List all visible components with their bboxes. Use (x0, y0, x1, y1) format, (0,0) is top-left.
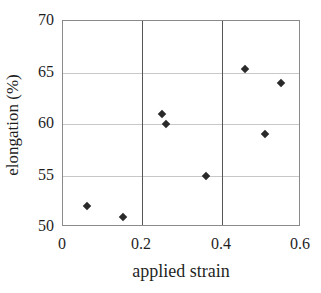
vertical-reference-line (222, 21, 223, 225)
diamond-marker (162, 120, 170, 128)
horizontal-gridline (63, 176, 299, 177)
plot-area (62, 20, 300, 226)
diamond-marker (241, 65, 249, 73)
horizontal-gridline (63, 124, 299, 125)
y-tick-label: 50 (0, 217, 54, 235)
y-tick-label: 65 (0, 63, 54, 81)
x-axis-title: applied strain (62, 260, 300, 282)
y-tick-label: 60 (0, 114, 54, 132)
diamond-marker (202, 172, 210, 180)
vertical-reference-line (142, 21, 143, 225)
elongation-vs-strain-chart: elongation (%) applied strain 5055606570… (0, 0, 321, 293)
x-tick-label: 0.4 (199, 235, 243, 253)
x-tick-label: 0.6 (278, 235, 321, 253)
y-tick-label: 70 (0, 11, 54, 29)
x-tick-label: 0 (40, 235, 84, 253)
diamond-marker (158, 110, 166, 118)
diamond-marker (119, 213, 127, 221)
diamond-marker (261, 130, 269, 138)
horizontal-gridline (63, 73, 299, 74)
diamond-marker (277, 79, 285, 87)
diamond-marker (83, 202, 91, 210)
x-tick-label: 0.2 (119, 235, 163, 253)
y-tick-label: 55 (0, 166, 54, 184)
